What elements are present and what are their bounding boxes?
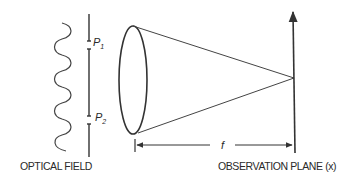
focal-length-label: f [221,139,225,151]
aperture-plane [87,14,91,157]
optics-diagram: P1 P2 f OPTICAL FIELD OBSERVATION PLANE … [0,0,364,182]
ray-top [133,26,294,78]
observation-axis [293,12,295,153]
p2-label: P2 [95,111,106,125]
p1-label: P1 [93,36,104,50]
observation-plane-label: OBSERVATION PLANE (x) [218,160,336,172]
ray-bottom [138,78,294,133]
lens [119,26,147,134]
optical-field-label: OPTICAL FIELD [20,160,93,172]
optical-wave [55,23,72,151]
